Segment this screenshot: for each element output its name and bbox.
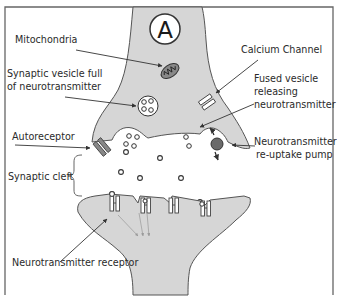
reuptake-arrow-up [210,128,214,135]
label-synaptic-vesicle-2: of neurotransmitter [7,81,101,92]
label-fused-vesicle-2: releasing [254,86,298,97]
label-synaptic-vesicle-1: Synaptic vesicle full [7,68,103,79]
label-receptor: Neurotransmitter receptor [12,257,138,268]
label-fused-vesicle-1: Fused vesicle [254,73,318,84]
label-autoreceptor: Autoreceptor [12,131,75,142]
reuptake-arrow-down [215,152,218,160]
synapse-diagram: A [0,0,337,300]
label-calcium-channel: Calcium Channel [241,44,322,55]
neuron-a-letter: A [157,17,173,43]
fused-vesicle-right [184,135,192,149]
synaptic-vesicle-icon [138,96,158,116]
label-fused-vesicle-3: neurotransmitter [254,99,336,110]
reuptake-pump-icon [211,138,223,150]
label-mitochondria: Mitochondria [15,34,77,45]
label-synaptic-cleft: Synaptic cleft [8,171,74,182]
postsynaptic-neuron [78,194,251,295]
label-reuptake-2: re-uptake pump [256,149,333,160]
label-reuptake-1: Neurotransmitter [254,136,337,147]
fused-vesicle-left [124,134,140,149]
